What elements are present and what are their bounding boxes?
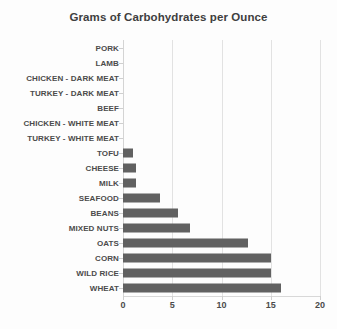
y-axis-tick-label: OATS xyxy=(0,239,119,248)
x-axis-tick xyxy=(320,296,321,300)
plot-area xyxy=(123,40,320,296)
y-axis-tick xyxy=(119,228,123,229)
y-axis-tick xyxy=(119,63,123,64)
bar-row xyxy=(123,206,320,221)
bar-row xyxy=(123,176,320,191)
y-axis-tick xyxy=(119,123,123,124)
bar-row xyxy=(123,281,320,296)
y-axis-tick-label: MIXED NUTS xyxy=(0,224,119,233)
y-axis-tick xyxy=(119,273,123,274)
chart-title: Grams of Carbohydrates per Ounce xyxy=(0,11,337,23)
y-axis-tick xyxy=(119,78,123,79)
x-axis-tick xyxy=(271,296,272,300)
bar-row xyxy=(123,70,320,85)
bar-row xyxy=(123,191,320,206)
x-axis-tick-label: 20 xyxy=(315,300,325,310)
y-axis-tick xyxy=(119,213,123,214)
x-axis-tick-label: 15 xyxy=(266,300,276,310)
y-axis-tick-label: TURKEY - WHITE MEAT xyxy=(0,133,119,142)
y-axis-tick xyxy=(119,108,123,109)
y-axis-tick-label: SEAFOOD xyxy=(0,194,119,203)
y-axis-tick-label: MILK xyxy=(0,179,119,188)
bar-row xyxy=(123,55,320,70)
carbohydrates-bar-chart: Grams of Carbohydrates per Ounce PORKLAM… xyxy=(0,0,337,329)
bar-row xyxy=(123,221,320,236)
y-axis-tick-label: CHICKEN - WHITE MEAT xyxy=(0,118,119,127)
bar xyxy=(123,239,248,248)
x-axis-tick xyxy=(123,296,124,300)
bar xyxy=(123,269,271,278)
y-axis-tick-label: TOFU xyxy=(0,148,119,157)
bar xyxy=(123,209,178,218)
x-axis-tick xyxy=(222,296,223,300)
y-axis-tick-label: TURKEY - DARK MEAT xyxy=(0,88,119,97)
bar xyxy=(123,194,160,203)
bar-row xyxy=(123,100,320,115)
y-axis-tick xyxy=(119,48,123,49)
x-axis-tick-label: 0 xyxy=(120,300,125,310)
y-axis-tick-label: LAMB xyxy=(0,58,119,67)
bar-row xyxy=(123,266,320,281)
y-axis-tick-label: CHEESE xyxy=(0,164,119,173)
y-axis-tick-label: CORN xyxy=(0,254,119,263)
bar xyxy=(123,254,271,263)
gridline xyxy=(320,40,321,296)
x-axis-tick xyxy=(172,296,173,300)
x-axis-labels: 05101520 xyxy=(0,300,337,320)
y-axis-tick xyxy=(119,138,123,139)
bar xyxy=(123,179,136,188)
y-axis-tick xyxy=(119,258,123,259)
y-axis-tick-label: BEEF xyxy=(0,103,119,112)
bar-row xyxy=(123,160,320,175)
bar-row xyxy=(123,85,320,100)
bar-row xyxy=(123,236,320,251)
y-axis-tick xyxy=(119,153,123,154)
y-axis-tick-label: CHICKEN - DARK MEAT xyxy=(0,73,119,82)
bar-row xyxy=(123,251,320,266)
y-axis-tick-label: WILD RICE xyxy=(0,269,119,278)
bar-row xyxy=(123,40,320,55)
y-axis-tick-label: PORK xyxy=(0,43,119,52)
bar xyxy=(123,224,190,233)
x-axis-tick-label: 10 xyxy=(216,300,226,310)
y-axis-tick xyxy=(119,168,123,169)
bar xyxy=(123,284,281,293)
x-axis-tick-label: 5 xyxy=(170,300,175,310)
bar-row xyxy=(123,130,320,145)
bar xyxy=(123,163,136,172)
y-axis-tick xyxy=(119,198,123,199)
y-axis-tick-label: WHEAT xyxy=(0,284,119,293)
bar xyxy=(123,148,133,157)
bar-row xyxy=(123,145,320,160)
y-axis-tick xyxy=(119,243,123,244)
y-axis-labels: PORKLAMBCHICKEN - DARK MEATTURKEY - DARK… xyxy=(0,40,119,296)
y-axis-tick xyxy=(119,288,123,289)
y-axis-tick-label: BEANS xyxy=(0,209,119,218)
y-axis-tick xyxy=(119,93,123,94)
y-axis-tick xyxy=(119,183,123,184)
bar-row xyxy=(123,115,320,130)
